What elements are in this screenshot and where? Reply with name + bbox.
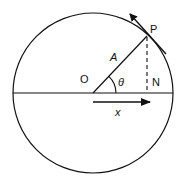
label-a: A xyxy=(109,51,117,63)
reference-circle-diagram: P O N A θ x xyxy=(0,0,183,185)
label-n: N xyxy=(152,76,160,88)
label-theta: θ xyxy=(118,76,124,88)
angle-arc-theta xyxy=(109,76,116,93)
label-o: O xyxy=(80,73,89,85)
label-x: x xyxy=(114,106,121,118)
label-p: P xyxy=(150,23,157,35)
